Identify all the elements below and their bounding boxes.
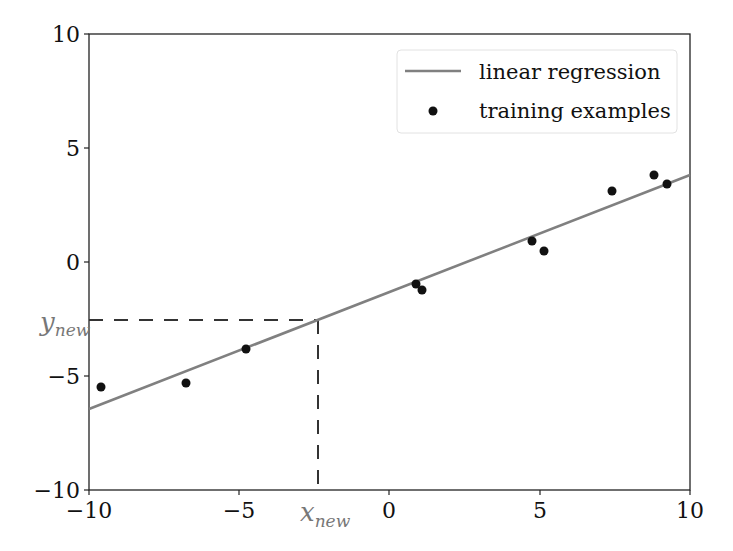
y-axis: 10 5 0 −5 −10 (34, 22, 89, 503)
legend-point-swatch (429, 107, 438, 116)
legend-label-line: linear regression (479, 60, 660, 84)
xnew-label: xnew (300, 497, 351, 531)
x-tick-label: 0 (382, 498, 396, 523)
y-tick-label: −5 (48, 364, 80, 389)
legend: linear regression training examples (397, 50, 677, 133)
x-tick-label: 5 (533, 498, 547, 523)
y-tick-label: 5 (66, 136, 80, 161)
regression-chart: 10 5 0 −5 −10 −10 −5 0 5 10 ynew (0, 0, 733, 551)
x-axis: −10 −5 0 5 10 (66, 490, 704, 523)
x-tick-label: 10 (676, 498, 704, 523)
x-tick-label: −5 (223, 498, 255, 523)
y-tick-label: 10 (52, 22, 80, 47)
x-tick-label: −10 (66, 498, 112, 523)
legend-label-points: training examples (479, 99, 671, 123)
y-tick-label: 0 (66, 250, 80, 275)
ynew-label: ynew (39, 307, 91, 340)
